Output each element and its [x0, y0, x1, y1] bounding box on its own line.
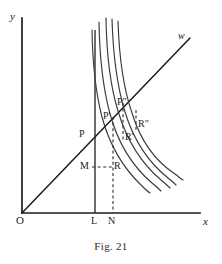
x-axis-label: x — [203, 216, 208, 227]
point-label-R: R — [114, 161, 121, 171]
y-axis-label: y — [10, 11, 15, 22]
line-w — [22, 38, 190, 213]
point-label-N: N — [108, 216, 115, 226]
origin-label: O — [16, 215, 24, 226]
point-label-L: L — [91, 216, 97, 226]
line-w-label: w — [178, 31, 185, 41]
figure-container: y x O w P P' P" R R' R" M L N Fig. 21 — [0, 0, 222, 264]
figure-caption: Fig. 21 — [0, 240, 222, 252]
point-label-R-prime: R' — [125, 132, 133, 142]
point-label-P-double-prime: P" — [117, 97, 127, 107]
point-label-P: P — [79, 129, 85, 139]
curve-5 — [118, 21, 183, 180]
point-label-P-prime: P' — [103, 111, 110, 121]
point-label-M: M — [80, 161, 89, 171]
point-label-R-double-prime: R" — [138, 119, 149, 129]
